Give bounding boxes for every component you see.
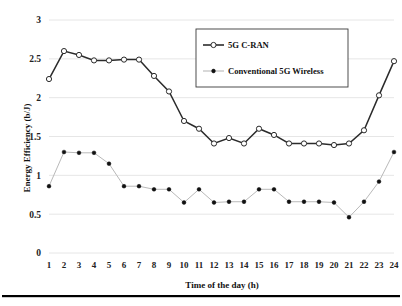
data-point-5g-cran <box>136 57 141 62</box>
x-tick-label: 1 <box>47 260 52 270</box>
data-point-5g-cran <box>226 135 231 140</box>
x-tick-label: 20 <box>330 260 340 270</box>
data-point-5g-cran <box>121 57 126 62</box>
data-point-5g-cran <box>181 118 186 123</box>
data-point-5g-cran <box>61 48 66 53</box>
x-axis-title: Time of the day (h) <box>185 280 258 290</box>
data-point-5g-cran <box>241 141 246 146</box>
data-point-5g-cran <box>46 76 51 81</box>
legend-label-conventional: Conventional 5G Wireless <box>228 66 324 76</box>
data-point-5g-cran <box>211 141 216 146</box>
x-tick-label: 7 <box>137 260 142 270</box>
x-tick-label: 14 <box>240 260 250 270</box>
data-point-conventional-5g-wireless <box>197 187 201 191</box>
x-tick-label: 22 <box>360 260 370 270</box>
x-tick-label: 8 <box>152 260 157 270</box>
data-point-5g-cran <box>256 126 261 131</box>
data-point-5g-cran <box>151 73 156 78</box>
data-point-5g-cran <box>316 141 321 146</box>
x-tick-label: 18 <box>300 260 310 270</box>
data-point-5g-cran <box>76 52 81 57</box>
data-point-conventional-5g-wireless <box>167 187 171 191</box>
data-point-5g-cran <box>346 141 351 146</box>
data-point-5g-cran <box>106 58 111 63</box>
legend-marker-cran <box>211 42 216 47</box>
data-point-5g-cran <box>196 126 201 131</box>
legend-marker-conventional <box>212 69 216 73</box>
data-point-5g-cran <box>376 93 381 98</box>
data-point-conventional-5g-wireless <box>257 187 261 191</box>
x-tick-label: 21 <box>345 260 355 270</box>
data-point-conventional-5g-wireless <box>122 184 126 188</box>
y-tick-label: 3 <box>36 15 41 25</box>
x-tick-label: 5 <box>107 260 112 270</box>
legend-label-cran: 5G C-RAN <box>228 40 270 50</box>
x-tick-label: 24 <box>390 260 400 270</box>
y-tick-label: 0 <box>36 248 41 258</box>
x-tick-label: 10 <box>180 260 190 270</box>
data-point-conventional-5g-wireless <box>392 150 396 154</box>
x-tick-label: 16 <box>270 260 280 270</box>
data-point-conventional-5g-wireless <box>332 201 336 205</box>
data-point-5g-cran <box>91 58 96 63</box>
data-point-5g-cran <box>331 142 336 147</box>
y-tick-label: 2.5 <box>29 54 41 64</box>
bottom-horizontal-rule <box>2 295 400 297</box>
data-point-conventional-5g-wireless <box>302 200 306 204</box>
data-point-conventional-5g-wireless <box>362 200 366 204</box>
x-tick-label: 4 <box>92 260 97 270</box>
y-tick-label: 2 <box>36 93 41 103</box>
data-point-conventional-5g-wireless <box>137 184 141 188</box>
x-tick-label: 15 <box>255 260 265 270</box>
y-axis-title: Energy Efficiency (b/J) <box>22 104 32 193</box>
x-tick-label: 17 <box>285 260 295 270</box>
data-point-5g-cran <box>361 128 366 133</box>
data-point-conventional-5g-wireless <box>272 187 276 191</box>
data-point-5g-cran <box>271 132 276 137</box>
data-point-conventional-5g-wireless <box>347 215 351 219</box>
y-tick-label: 0.5 <box>29 210 41 220</box>
energy-efficiency-line-chart: 00.511.522.53 12345678910111213141516171… <box>0 0 402 306</box>
chart-legend: 5G C-RAN Conventional 5G Wireless <box>196 29 348 87</box>
data-point-conventional-5g-wireless <box>182 201 186 205</box>
x-tick-label: 12 <box>210 260 220 270</box>
data-point-conventional-5g-wireless <box>152 187 156 191</box>
data-point-conventional-5g-wireless <box>227 200 231 204</box>
y-tick-label: 1 <box>36 171 41 181</box>
x-tick-label: 9 <box>167 260 172 270</box>
x-tick-label: 11 <box>195 260 204 270</box>
data-point-conventional-5g-wireless <box>287 200 291 204</box>
legend-border <box>196 29 348 87</box>
x-tick-label: 2 <box>62 260 67 270</box>
data-point-5g-cran <box>286 141 291 146</box>
data-point-conventional-5g-wireless <box>77 151 81 155</box>
data-point-conventional-5g-wireless <box>47 184 51 188</box>
data-point-5g-cran <box>391 59 396 64</box>
x-tick-label: 13 <box>225 260 235 270</box>
x-tick-label: 6 <box>122 260 127 270</box>
data-point-conventional-5g-wireless <box>212 201 216 205</box>
x-tick-label: 23 <box>375 260 385 270</box>
data-point-conventional-5g-wireless <box>107 162 111 166</box>
data-point-conventional-5g-wireless <box>317 200 321 204</box>
chart-figure: 00.511.522.53 12345678910111213141516171… <box>0 0 402 306</box>
data-point-conventional-5g-wireless <box>62 150 66 154</box>
data-point-conventional-5g-wireless <box>92 151 96 155</box>
data-point-5g-cran <box>166 89 171 94</box>
data-point-conventional-5g-wireless <box>242 200 246 204</box>
x-tick-label: 3 <box>77 260 82 270</box>
x-tick-label: 19 <box>315 260 325 270</box>
data-point-5g-cran <box>301 141 306 146</box>
data-point-conventional-5g-wireless <box>377 180 381 184</box>
